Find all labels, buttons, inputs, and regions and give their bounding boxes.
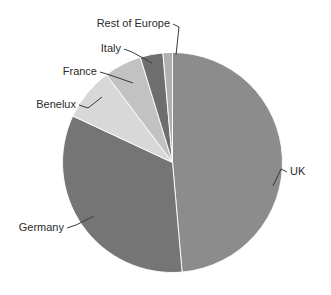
pie-chart-canvas: Rest of Europe Italy France Benelux Germ… [0,0,331,295]
pie-chart-figure: Rest of Europe Italy France Benelux Germ… [0,0,331,295]
pie-label-uk: UK [290,165,306,177]
pie-label-rest-of-europe: Rest of Europe [97,17,170,29]
pie-label-france: France [63,65,97,77]
leader-line-rest-of-europe [173,24,179,55]
pie-label-germany: Germany [19,221,65,233]
pie-label-italy: Italy [101,42,122,54]
pie-label-benelux: Benelux [36,98,76,110]
pie-slice-uk[interactable] [173,53,283,273]
pie-slices-group [63,53,283,273]
